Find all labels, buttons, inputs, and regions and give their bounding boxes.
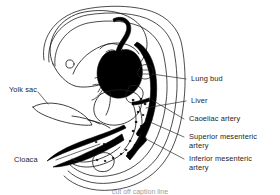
label-liver: Liver — [191, 96, 208, 105]
label-caoeliac-artery: Caoeliac artery — [189, 114, 240, 123]
figure-caption: cut off caption line — [0, 188, 280, 195]
leader-caoeliac — [152, 100, 184, 119]
label-inferior-mesenteric-artery: Inferior mesenteric artery — [189, 154, 252, 172]
eye — [66, 60, 74, 68]
inferior-mesenteric-vessel — [127, 137, 147, 156]
label-yolk-sac: Yolk sac — [9, 85, 37, 94]
leader-lung-bud — [152, 74, 186, 79]
label-cloaca: Cloaca — [14, 155, 38, 164]
leader-yolk-sac — [38, 92, 48, 104]
heart-chambers — [97, 50, 142, 99]
label-lung-bud: Lung bud — [191, 74, 223, 83]
cloaca-chamber — [93, 153, 115, 172]
label-superior-mesenteric-artery: Superior mesenteric artery — [189, 132, 257, 150]
yolk-sac-outline — [33, 103, 92, 125]
dorsal-aorta-arch — [113, 17, 131, 53]
midgut-loop — [124, 104, 136, 150]
